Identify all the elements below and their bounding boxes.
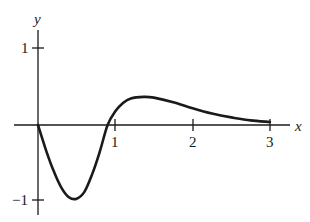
x-tick-label-3: 3 — [266, 134, 274, 150]
y-tick-label-1: 1 — [21, 40, 29, 56]
y-tick-label-minus1: −1 — [12, 192, 28, 208]
x-tick-label-1: 1 — [111, 134, 119, 150]
x-tick-label-2: 2 — [189, 134, 197, 150]
y-axis-label: y — [32, 11, 41, 27]
x-axis-label: x — [294, 118, 302, 134]
data-curve — [38, 97, 270, 199]
chart: y x 1 2 3 1 −1 — [0, 0, 310, 222]
